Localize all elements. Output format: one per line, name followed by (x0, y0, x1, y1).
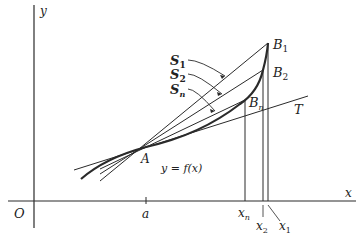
tick-label-x2: x2 (256, 219, 268, 235)
secant-Sn-label: Sn (170, 82, 185, 99)
point-A-label: A (140, 152, 150, 166)
point-B2-label: B2 (272, 65, 288, 82)
y-axis-label: y (39, 4, 47, 18)
tangent-label: T (294, 102, 304, 117)
arrow-S2-icon (217, 92, 222, 96)
origin-label: O (14, 206, 25, 221)
x-axis-label: x (345, 186, 352, 200)
secant-line-Sn (100, 100, 245, 169)
leader-Sn (188, 89, 215, 111)
point-Bn-label: Bn (248, 95, 264, 112)
tick-label-a: a (142, 207, 149, 221)
curve-label: y = f(x) (160, 162, 202, 175)
secant-line-S2 (100, 70, 263, 174)
secant-tangent-diagram: y x O A B1 B2 Bn S1 S2 Sn T y = f(x) a x… (0, 0, 364, 245)
point-B1-label: B1 (272, 37, 288, 54)
tick-label-x1: x1 (279, 219, 291, 235)
tick-label-xn: xn (238, 206, 250, 222)
leader-S1 (188, 60, 225, 76)
